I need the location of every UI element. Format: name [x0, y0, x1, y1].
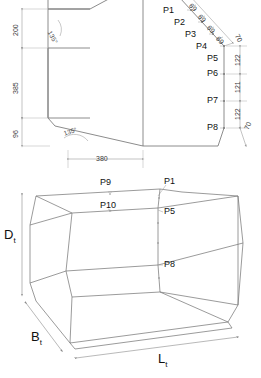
dimension-breadth-symbol: B: [31, 329, 40, 344]
point-label-p6: P6: [207, 69, 218, 78]
cross-section-graphics: [0, 0, 261, 170]
iso-point-label-p9: P9: [100, 178, 111, 187]
point-label-p3: P3: [185, 30, 196, 39]
diagram-root: 200 385 96 380 135° 135° P1 P2 P3 P4 P5 …: [0, 0, 261, 378]
point-label-p1: P1: [163, 6, 174, 15]
dimension-bottom-380: 380: [96, 155, 108, 162]
dimension-breadth-subscript: t: [40, 338, 42, 347]
iso-point-label-p8: P8: [164, 260, 175, 269]
dimension-depth-subscript: t: [13, 236, 15, 245]
iso-point-label-p10: P10: [100, 201, 116, 210]
point-label-p4: P4: [196, 42, 207, 51]
dimension-right-121: 121: [234, 81, 241, 93]
point-label-p7: P7: [207, 96, 218, 105]
dimension-left-385: 385: [12, 82, 19, 94]
dimension-right-122a: 122: [234, 54, 241, 66]
point-label-p8: P8: [207, 123, 218, 132]
dimension-depth-dt: Dt: [4, 228, 16, 245]
point-label-p5: P5: [207, 54, 218, 63]
iso-point-label-p1: P1: [164, 177, 175, 186]
iso-point-label-p5: P5: [164, 207, 175, 216]
dimension-length-lt: Lt: [158, 352, 167, 369]
dimension-left-96: 96: [12, 130, 19, 138]
dimension-left-200: 200: [12, 24, 19, 36]
dimension-length-subscript: t: [165, 360, 167, 369]
point-label-p2: P2: [174, 18, 185, 27]
dimension-depth-symbol: D: [4, 227, 13, 242]
dimension-breadth-bt: Bt: [31, 330, 42, 347]
dimension-right-122b: 122: [234, 108, 241, 120]
